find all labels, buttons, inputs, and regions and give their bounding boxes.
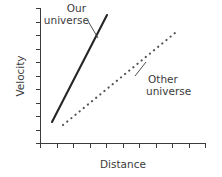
- axis-group: [41, 8, 207, 144]
- y-axis-label: Velocity: [14, 55, 26, 96]
- annotation-our-universe-line2: universe: [44, 14, 89, 26]
- chart-canvas: Our universe Other universe Distance Vel…: [0, 0, 222, 177]
- annotation-other-universe-line1: Other: [148, 73, 178, 85]
- annotation-other-universe-line2: universe: [146, 85, 191, 97]
- annotation-our-universe-line1: Our: [67, 2, 87, 14]
- series-line-our-universe: [52, 15, 107, 122]
- x-axis-ticks: [41, 144, 206, 149]
- y-axis-ticks: [36, 9, 41, 144]
- chart-figure: Our universe Other universe Distance Vel…: [0, 0, 222, 177]
- x-axis-label: Distance: [100, 158, 146, 170]
- leader-line-our-universe: [88, 21, 98, 38]
